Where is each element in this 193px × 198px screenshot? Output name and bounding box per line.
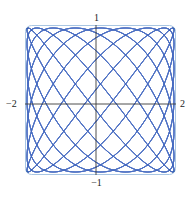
x-axis-tick-label-right: 2 <box>180 99 185 109</box>
x-axis-tick-label-left: −2 <box>6 99 17 109</box>
y-axis-tick-label-bottom: −1 <box>0 178 193 188</box>
y-axis-tick-label-top: 1 <box>0 13 193 23</box>
parametric-plot-figure: 1 −1 −2 2 <box>0 0 193 198</box>
plot-canvas <box>0 0 193 198</box>
plot-frame <box>26 26 176 175</box>
